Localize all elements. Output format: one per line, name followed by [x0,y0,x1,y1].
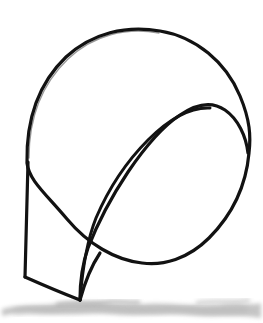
sketch-canvas: Hand-drawn sketch of a circle with an in… [0,0,263,323]
sketch-drawing [0,0,263,323]
paper-background [0,0,263,323]
